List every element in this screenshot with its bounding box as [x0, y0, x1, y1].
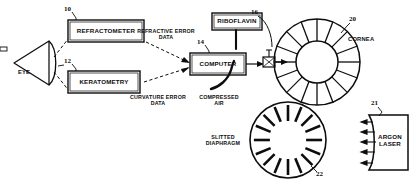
- riboflavin-label: RIBOFLAVIN: [212, 18, 262, 25]
- ref-numeral-10: 10: [64, 5, 71, 13]
- curvature-error-data-label: CURVATURE ERROR DATA: [124, 95, 192, 106]
- cornea-ring: [274, 19, 360, 105]
- patent-figure: EYE REFRACTOMETER KERATOMETRY COMPUTER R…: [0, 0, 416, 188]
- argon-laser-label: ARGON LASER: [376, 134, 404, 147]
- eye-symbol: [14, 41, 56, 85]
- refractometer-label: REFRACTOMETER: [68, 28, 144, 35]
- ref-numeral-21: 21: [371, 99, 378, 107]
- ref-14-leader: [205, 45, 209, 53]
- ref-numeral-14: 14: [197, 38, 204, 46]
- ref-numeral-20: 20: [349, 15, 356, 23]
- eye-label: EYE: [10, 69, 38, 75]
- ref-10-leader: [72, 12, 76, 20]
- cornea-label: CORNEA: [348, 36, 390, 42]
- ref-numeral-22: 22: [316, 170, 323, 178]
- ref-numeral-12: 12: [64, 57, 71, 65]
- slitted-diaphragm-label: SLITTED DIAPHRAGM: [196, 135, 250, 146]
- ref-numeral-16: 16: [251, 8, 258, 16]
- ref-12-leader: [58, 64, 76, 71]
- computer-label: COMPUTER: [190, 61, 246, 68]
- refractive-error-data-label: REFRACTIVE ERROR DATA: [134, 29, 198, 40]
- slitted-diaphragm: [250, 102, 326, 178]
- compressed-air-label: COMPRESSED AIR: [192, 95, 246, 106]
- keratometry-label: KERATOMETRY: [68, 79, 140, 86]
